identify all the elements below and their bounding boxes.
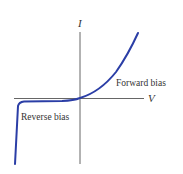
y-axis-label: I bbox=[77, 17, 83, 29]
x-axis-label: V bbox=[148, 92, 156, 104]
forward-bias-label: Forward bias bbox=[116, 78, 166, 88]
reverse-bias-label: Reverse bias bbox=[21, 112, 70, 122]
diode-iv-diagram: I V Forward bias Reverse bias bbox=[0, 0, 183, 174]
